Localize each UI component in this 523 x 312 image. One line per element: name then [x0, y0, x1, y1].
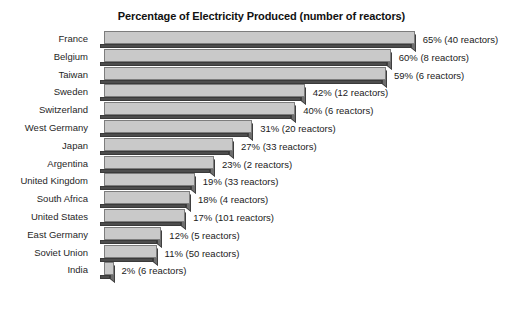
bar-top-face [104, 120, 252, 133]
category-label-sweden: Sweden [0, 86, 88, 98]
value-label-united-states: 17% (101 reactors) [193, 212, 274, 224]
chart-row: United Kingdom19% (33 reactors) [0, 173, 523, 191]
bar-chart: Percentage of Electricity Produced (numb… [0, 0, 523, 312]
bar-top-face [104, 49, 391, 62]
chart-row: Switzerland40% (6 reactors) [0, 102, 523, 120]
value-label-india: 2% (6 reactors) [122, 265, 187, 277]
bar-front-face [100, 169, 210, 173]
chart-row: Soviet Union11% (50 reactors) [0, 245, 523, 263]
bar-switzerland [100, 102, 297, 120]
category-label-united-states: United States [0, 211, 88, 223]
category-label-taiwan: Taiwan [0, 69, 88, 81]
category-label-west-germany: West Germany [0, 122, 88, 134]
bar-front-face [100, 186, 191, 190]
bar-top-face [104, 138, 233, 151]
bar-front-face [100, 222, 181, 226]
bar-united-kingdom [100, 173, 197, 191]
category-label-south-africa: South Africa [0, 193, 88, 205]
category-label-france: France [0, 33, 88, 45]
bar-india [100, 262, 116, 280]
value-label-south-africa: 18% (4 reactors) [198, 194, 268, 206]
value-label-taiwan: 59% (6 reactors) [394, 70, 464, 82]
bar-top-face [104, 227, 161, 240]
bar-top-face [104, 84, 305, 97]
bar-front-face [100, 275, 110, 279]
chart-row: United States17% (101 reactors) [0, 209, 523, 227]
bar-argentina [100, 156, 216, 174]
chart-row: India2% (6 reactors) [0, 262, 523, 280]
value-label-argentina: 23% (2 reactors) [222, 159, 292, 171]
bar-front-face [100, 115, 291, 119]
value-label-west-germany: 31% (20 reactors) [260, 123, 336, 135]
bar-top-face [104, 245, 157, 258]
category-label-soviet-union: Soviet Union [0, 247, 88, 259]
value-label-belgium: 60% (8 reactors) [399, 52, 469, 64]
value-label-united-kingdom: 19% (33 reactors) [203, 176, 279, 188]
plot-area: France65% (40 reactors)Belgium60% (8 rea… [0, 0, 523, 312]
bar-front-face [100, 44, 411, 48]
bar-united-states [100, 209, 187, 227]
category-label-japan: Japan [0, 140, 88, 152]
category-label-india: India [0, 264, 88, 276]
chart-row: Belgium60% (8 reactors) [0, 49, 523, 67]
bar-front-face [100, 204, 186, 208]
chart-row: South Africa18% (4 reactors) [0, 191, 523, 209]
category-label-east-germany: East Germany [0, 229, 88, 241]
chart-row: West Germany31% (20 reactors) [0, 120, 523, 138]
bar-taiwan [100, 67, 388, 85]
chart-row: Japan27% (33 reactors) [0, 138, 523, 156]
value-label-sweden: 42% (12 reactors) [313, 87, 389, 99]
value-label-switzerland: 40% (6 reactors) [303, 105, 373, 117]
category-label-united-kingdom: United Kingdom [0, 175, 88, 187]
bar-front-face [100, 240, 157, 244]
bar-south-africa [100, 191, 192, 209]
bar-top-face [104, 209, 185, 222]
bar-france [100, 31, 417, 49]
bar-top-face [104, 262, 114, 275]
category-label-belgium: Belgium [0, 51, 88, 63]
chart-row: East Germany12% (5 reactors) [0, 227, 523, 245]
chart-row: Sweden42% (12 reactors) [0, 84, 523, 102]
bar-front-face [100, 258, 153, 262]
bar-soviet-union [100, 245, 159, 263]
chart-row: Taiwan59% (6 reactors) [0, 67, 523, 85]
bar-top-face [104, 156, 214, 169]
bar-front-face [100, 133, 248, 137]
bar-top-face [104, 102, 295, 115]
value-label-france: 65% (40 reactors) [423, 34, 499, 46]
bar-top-face [104, 191, 190, 204]
value-label-japan: 27% (33 reactors) [241, 141, 317, 153]
bar-top-face [104, 67, 386, 80]
category-label-switzerland: Switzerland [0, 104, 88, 116]
bar-top-face [104, 173, 195, 186]
bar-front-face [100, 151, 229, 155]
chart-row: Argentina23% (2 reactors) [0, 156, 523, 174]
bar-front-face [100, 62, 387, 66]
bar-belgium [100, 49, 393, 67]
value-label-east-germany: 12% (5 reactors) [169, 230, 239, 242]
bar-top-face [104, 31, 415, 44]
bar-sweden [100, 84, 307, 102]
value-label-soviet-union: 11% (50 reactors) [165, 248, 240, 260]
bar-front-face [100, 97, 301, 101]
category-label-argentina: Argentina [0, 158, 88, 170]
chart-row: France65% (40 reactors) [0, 31, 523, 49]
bar-front-face [100, 80, 382, 84]
bar-west-germany [100, 120, 254, 138]
bar-east-germany [100, 227, 163, 245]
bar-japan [100, 138, 235, 156]
